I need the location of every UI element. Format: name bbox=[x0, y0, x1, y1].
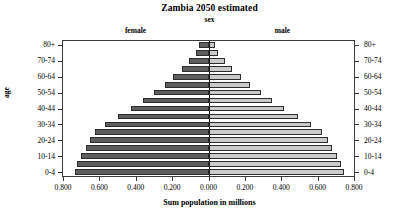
bar-male-75-79 bbox=[209, 50, 219, 56]
x-axis-label-0.200-5: 0.200 bbox=[225, 183, 265, 192]
y-axis-label-70-74-right: 70-74 bbox=[364, 56, 382, 65]
y-axis-label-10-14-right: 10-14 bbox=[364, 152, 382, 161]
x-tick bbox=[209, 177, 210, 181]
y-tick-right bbox=[355, 172, 359, 173]
bar-female-30-34 bbox=[105, 122, 208, 128]
bar-female-40-44 bbox=[131, 106, 209, 112]
bar-female-60-64 bbox=[173, 74, 208, 80]
y-axis-label-20-24-right: 20-24 bbox=[364, 136, 382, 145]
x-tick bbox=[136, 177, 137, 181]
bar-female-35-39 bbox=[118, 114, 209, 120]
panel-label-female: female bbox=[62, 26, 209, 35]
bar-female-70-74 bbox=[189, 58, 208, 64]
y-axis-label-0-4-right: 0-4 bbox=[364, 168, 374, 177]
bar-female-50-54 bbox=[154, 90, 208, 96]
bar-male-25-29 bbox=[209, 129, 322, 135]
x-axis-label-0.000-4: 0.000 bbox=[189, 183, 229, 192]
y-axis-label-10-14-left: 10-14 bbox=[38, 152, 56, 161]
bar-female-55-59 bbox=[165, 82, 209, 88]
y-tick-left bbox=[58, 45, 62, 46]
x-axis-title: Sum population in millions bbox=[0, 198, 419, 207]
y-tick-right bbox=[355, 140, 359, 141]
y-axis-label-80+-right: 80+ bbox=[364, 40, 376, 49]
x-tick bbox=[354, 177, 355, 181]
y-tick-left bbox=[58, 156, 62, 157]
bar-male-70-74 bbox=[209, 58, 225, 64]
y-axis-label-30-34-left: 30-34 bbox=[38, 120, 56, 129]
bar-female-45-49 bbox=[143, 98, 208, 104]
y-tick-left bbox=[58, 172, 62, 173]
y-tick-right bbox=[355, 124, 359, 125]
bar-male-20-24 bbox=[209, 137, 328, 143]
bar-male-10-14 bbox=[209, 153, 337, 159]
y-tick-right bbox=[355, 109, 359, 110]
bar-male-30-34 bbox=[209, 122, 312, 128]
y-tick-left bbox=[58, 124, 62, 125]
y-tick-left bbox=[58, 140, 62, 141]
x-axis-label-0.800-8: 0.800 bbox=[334, 183, 374, 192]
y-axis-label-0-4-left: 0-4 bbox=[45, 168, 55, 177]
x-tick bbox=[63, 177, 64, 181]
x-tick bbox=[318, 177, 319, 181]
y-tick-right bbox=[355, 61, 359, 62]
y-axis-label-70-74-left: 70-74 bbox=[38, 56, 56, 65]
y-axis-label-50-54-right: 50-54 bbox=[364, 88, 382, 97]
chart-subtitle: sex bbox=[0, 15, 419, 24]
x-tick bbox=[245, 177, 246, 181]
x-axis-label-0.400-2: 0.400 bbox=[116, 183, 156, 192]
panel-label-male: male bbox=[209, 26, 356, 35]
bar-female-0-4 bbox=[75, 169, 209, 175]
y-axis-label-20-24-left: 20-24 bbox=[38, 136, 56, 145]
bar-female-15-19 bbox=[86, 145, 209, 151]
y-axis-label-60-64-right: 60-64 bbox=[364, 72, 382, 81]
y-axis-label-30-34-right: 30-34 bbox=[364, 120, 382, 129]
y-tick-right bbox=[355, 45, 359, 46]
bar-female-5-9 bbox=[77, 161, 208, 167]
y-axis-label-50-54-left: 50-54 bbox=[38, 88, 56, 97]
bar-female-10-14 bbox=[81, 153, 208, 159]
y-tick-left bbox=[58, 61, 62, 62]
bar-male-65-69 bbox=[209, 66, 233, 72]
y-tick-right bbox=[355, 156, 359, 157]
bar-female-20-24 bbox=[90, 137, 209, 143]
bar-male-45-49 bbox=[209, 98, 272, 104]
bar-female-75-79 bbox=[196, 50, 208, 56]
bar-male-55-59 bbox=[209, 82, 251, 88]
bar-male-5-9 bbox=[209, 161, 342, 167]
bar-male-50-54 bbox=[209, 90, 261, 96]
y-tick-right bbox=[355, 77, 359, 78]
chart-title: Zambia 2050 estimated bbox=[0, 3, 419, 13]
bar-male-35-39 bbox=[209, 114, 299, 120]
bar-male-60-64 bbox=[209, 74, 241, 80]
center-axis-line bbox=[209, 41, 210, 176]
bar-female-25-29 bbox=[95, 129, 208, 135]
bar-female-65-69 bbox=[182, 66, 209, 72]
y-tick-left bbox=[58, 109, 62, 110]
x-tick bbox=[99, 177, 100, 181]
x-tick bbox=[172, 177, 173, 181]
x-axis-label-0.600-1: 0.600 bbox=[79, 183, 119, 192]
y-tick-right bbox=[355, 93, 359, 94]
y-axis-label-40-44-left: 40-44 bbox=[38, 104, 56, 113]
y-axis-title: age bbox=[2, 87, 11, 98]
x-axis-label-0.800-0: 0.800 bbox=[43, 183, 83, 192]
x-axis-label-0.600-7: 0.600 bbox=[298, 183, 338, 192]
plot-area bbox=[62, 40, 355, 177]
bar-male-0-4 bbox=[209, 169, 344, 175]
x-tick bbox=[281, 177, 282, 181]
y-axis-label-40-44-right: 40-44 bbox=[364, 104, 382, 113]
bar-female-80+ bbox=[199, 42, 209, 48]
x-axis-label-0.400-6: 0.400 bbox=[261, 183, 301, 192]
bar-male-40-44 bbox=[209, 106, 285, 112]
y-axis-label-80+-left: 80+ bbox=[43, 40, 55, 49]
x-axis-label-0.200-3: 0.200 bbox=[152, 183, 192, 192]
y-tick-left bbox=[58, 77, 62, 78]
y-axis-label-60-64-left: 60-64 bbox=[38, 72, 56, 81]
y-tick-left bbox=[58, 93, 62, 94]
bar-male-15-19 bbox=[209, 145, 333, 151]
population-pyramid-chart: Zambia 2050 estimated sex female male 0-… bbox=[0, 0, 419, 221]
